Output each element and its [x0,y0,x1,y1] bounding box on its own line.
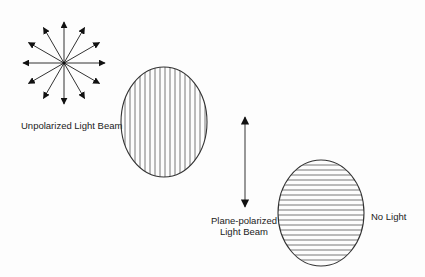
vertical-hatched-ellipse-icon [121,60,207,185]
unpolarized-light-label: Unpolarized Light Beam [21,120,122,131]
horizontal-hatched-ellipse-icon [270,160,370,266]
plane-polarized-label-line2: Light Beam [206,226,282,237]
plane-polarized-label-line1: Plane-polarized [206,215,282,226]
no-light-label: No Light [371,211,406,222]
plane-polarized-light-label: Plane-polarized Light Beam [206,215,282,237]
polarization-diagram: Unpolarized Light Beam Plane-polarized L… [0,0,425,277]
starburst-arrows-icon [23,22,105,104]
